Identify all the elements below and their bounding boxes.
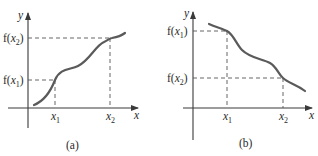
x-label-a: x (133, 109, 140, 121)
increasing-curve (34, 33, 125, 105)
caption-a: (a) (66, 139, 79, 152)
tick-x1-b: x1 (222, 110, 232, 125)
tick-fx1-b: f(x1) (167, 25, 188, 40)
y-label-a: y (17, 9, 24, 22)
caption-b: (b) (239, 137, 253, 150)
y-label-b: y (183, 7, 190, 20)
tick-x1-a: x1 (50, 110, 60, 125)
panel-b: y x f(x1) f(x2) x1 x2 (b) (167, 7, 315, 150)
tick-x2-b: x2 (278, 110, 288, 125)
tick-fx2-b: f(x2) (167, 72, 188, 87)
decreasing-curve (209, 24, 305, 91)
tick-x2-a: x2 (105, 110, 115, 125)
tick-fx1-a: f(x1) (3, 74, 24, 89)
figure-canvas: y x f(x2) f(x1) x1 x2 (a) y x f(x1) f(x2… (0, 0, 318, 156)
panel-a: y x f(x2) f(x1) x1 x2 (a) (3, 9, 140, 152)
tick-fx2-a: f(x2) (3, 32, 24, 47)
x-label-b: x (308, 109, 315, 121)
